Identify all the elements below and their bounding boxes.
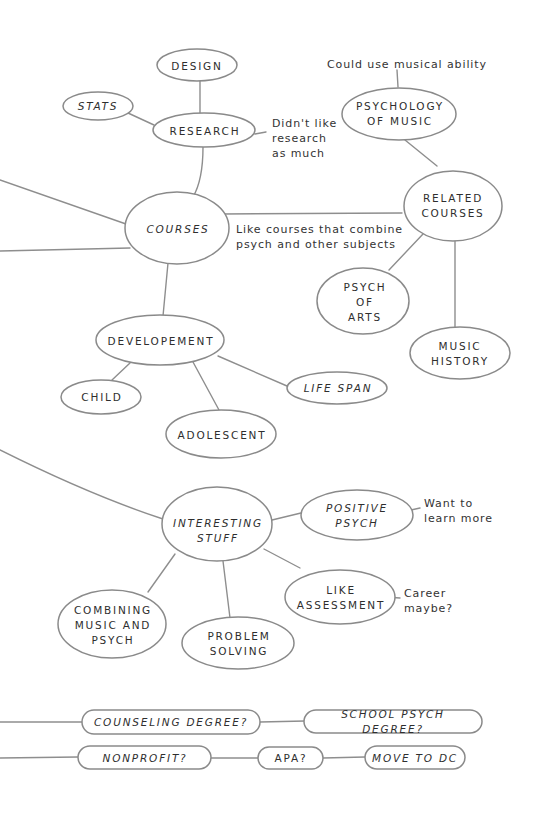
edge-courses-development	[163, 263, 168, 316]
node-nonprofit: NONPROFIT?	[103, 751, 188, 766]
edge-stats-research	[128, 113, 154, 125]
node-counseling-degree: COUNSELING DEGREE?	[94, 715, 248, 730]
node-interesting-stuff: INTERESTING STUFF	[173, 516, 263, 546]
edge-dev-child	[112, 363, 130, 380]
edge-left-courses-lower	[0, 248, 130, 251]
edge-research-courses	[193, 147, 203, 197]
edge-interesting-combining	[148, 554, 175, 592]
node-related-courses: RELATED COURSES	[421, 191, 484, 221]
node-music-history: MUSIC HISTORY	[431, 339, 489, 369]
node-positive-psych: POSITIVE PSYCH	[326, 501, 388, 531]
node-apa: APA?	[275, 751, 308, 766]
edge-research-note	[255, 132, 266, 134]
node-school-psych-degree: SCHOOL PSYCH DEGREE?	[317, 707, 469, 737]
edge-interesting-problem	[223, 561, 230, 618]
node-life-span: LIFE SPAN	[304, 381, 373, 396]
node-problem-solving: PROBLEM SOLVING	[207, 629, 270, 659]
edge-psychmusic-related	[405, 140, 437, 166]
edge-apa-dc	[323, 757, 365, 758]
edge-left-interesting	[0, 450, 163, 519]
node-move-to-dc: MOVE TO DC	[372, 751, 458, 766]
node-developement: DEVELOPEMENT	[108, 334, 215, 349]
node-like-assessment: LIKE ASSESSMENT	[297, 583, 385, 613]
node-psych-of-arts: PSYCH OF ARTS	[343, 280, 386, 325]
edge-dev-lifespan	[218, 356, 287, 386]
node-psychology-of-music: PSYCHOLOGY OF MUSIC	[356, 99, 444, 129]
node-courses: COURSES	[146, 222, 209, 237]
edge-psychmusic-note	[397, 70, 398, 87]
node-combining-music-and-psych: COMBINING MUSIC AND PSYCH	[74, 603, 152, 648]
edge-left-courses-upper	[0, 180, 126, 224]
edge-left-nonprofit	[0, 757, 78, 758]
edge-interesting-assessment	[264, 549, 300, 568]
node-design: DESIGN	[171, 59, 222, 74]
edge-dev-adolescent	[193, 362, 219, 410]
mind-map-canvas: DESIGN STATS RESEARCH COURSES PSYCHOLOGY…	[0, 0, 545, 827]
note-career-maybe: Career maybe?	[404, 586, 453, 616]
note-combine-courses: Like courses that combine psych and othe…	[236, 222, 403, 252]
edge-courses-related	[222, 213, 402, 214]
edge-interesting-positive	[272, 513, 301, 520]
node-research: RESEARCH	[170, 124, 241, 139]
node-child: CHILD	[81, 390, 122, 405]
edge-counseling-school	[260, 721, 305, 722]
note-research-dislike: Didn't like research as much	[272, 116, 337, 161]
note-musical-ability: Could use musical ability	[327, 57, 487, 72]
node-adolescent: ADOLESCENT	[178, 428, 267, 443]
note-learn-more: Want to learn more	[424, 496, 493, 526]
node-stats: STATS	[78, 99, 119, 114]
